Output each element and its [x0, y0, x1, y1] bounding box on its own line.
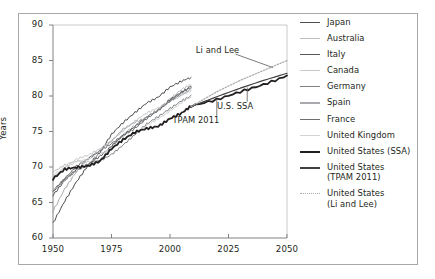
legend-item[interactable]: Canada	[300, 65, 426, 76]
legend-swatch-icon	[300, 135, 320, 136]
legend-item-label: United States(Li and Lee)	[327, 188, 384, 209]
y-tick-label: 60	[23, 232, 43, 242]
x-tick-label: 2050	[270, 244, 304, 254]
legend-swatch-icon	[300, 151, 320, 153]
figure-root: Years 9085807570656019501975200020252050…	[0, 0, 435, 279]
legend-item[interactable]: France	[300, 114, 426, 125]
y-tick-label: 90	[23, 19, 43, 29]
plot-annotation: Li and Lee	[196, 45, 240, 55]
y-tick-label: 85	[23, 55, 43, 65]
y-tick-label: 70	[23, 161, 43, 171]
legend-swatch-icon	[300, 102, 320, 103]
legend-item[interactable]: United States (SSA)	[300, 146, 426, 157]
legend-item-label: Italy	[327, 49, 345, 60]
legend-item-label: United Kingdom	[327, 130, 395, 141]
legend-item-label: Japan	[327, 17, 351, 28]
legend-swatch-icon	[300, 70, 320, 71]
y-tick-label: 80	[23, 90, 43, 100]
legend-swatch-icon	[300, 38, 320, 39]
y-tick-label: 65	[23, 197, 43, 207]
legend-item-label: Germany	[327, 81, 366, 92]
legend-item-label: Australia	[327, 33, 365, 44]
x-tick-label: 2000	[153, 244, 187, 254]
chart-legend: JapanAustraliaItalyCanadaGermanySpainFra…	[300, 17, 426, 214]
legend-item-label: United States(TPAM 2011)	[327, 162, 384, 183]
y-axis-label: Years	[0, 117, 8, 140]
legend-swatch-icon	[300, 54, 320, 55]
legend-swatch-icon	[300, 22, 320, 23]
legend-item[interactable]: Italy	[300, 49, 426, 60]
legend-swatch-icon	[300, 193, 320, 194]
legend-item[interactable]: United Kingdom	[300, 130, 426, 141]
legend-swatch-icon	[300, 119, 320, 120]
legend-item-label: France	[327, 114, 355, 125]
series-line	[53, 85, 191, 173]
legend-item[interactable]: United States(TPAM 2011)	[300, 162, 426, 183]
legend-item-label: United States (SSA)	[327, 146, 410, 157]
y-tick-label: 75	[23, 126, 43, 136]
annotation-leader-line	[236, 54, 273, 67]
legend-item[interactable]: Australia	[300, 33, 426, 44]
legend-swatch-icon	[300, 167, 320, 169]
legend-item[interactable]: Spain	[300, 97, 426, 108]
x-tick-label: 2025	[212, 244, 246, 254]
legend-item-label: Canada	[327, 65, 359, 76]
x-tick-label: 1975	[95, 244, 129, 254]
plot-annotation: TPAM 2011	[172, 115, 219, 125]
legend-item-label: Spain	[327, 97, 351, 108]
legend-item[interactable]: Japan	[300, 17, 426, 28]
legend-item[interactable]: Germany	[300, 81, 426, 92]
plot-annotation: U.S. SSA	[217, 101, 253, 111]
legend-swatch-icon	[300, 86, 320, 87]
x-tick-label: 1950	[36, 244, 70, 254]
legend-item[interactable]: United States(Li and Lee)	[300, 188, 426, 209]
